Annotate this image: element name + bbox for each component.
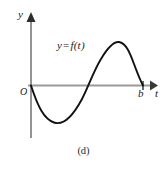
- function-curve: [31, 42, 143, 123]
- y-axis-arrowhead: [27, 12, 36, 22]
- function-equation-label: y=f(t): [57, 40, 85, 51]
- figure-panel: y t O b y=f(t) (d): [0, 0, 167, 170]
- function-rhs: f(t): [71, 39, 85, 51]
- figure-caption: (d): [0, 146, 167, 157]
- upper-limit-label: b: [138, 88, 144, 99]
- t-axis-label: t: [155, 88, 158, 99]
- equals-sign: =: [62, 39, 70, 51]
- origin-label: O: [20, 87, 27, 97]
- y-axis-label: y: [18, 9, 23, 20]
